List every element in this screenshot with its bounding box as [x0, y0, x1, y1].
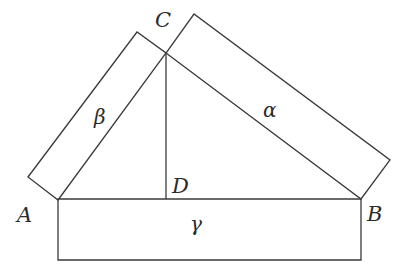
- label-alpha: α: [263, 98, 277, 122]
- label-gamma: γ: [190, 212, 202, 236]
- label-c: C: [155, 8, 171, 32]
- label-beta: β: [93, 105, 106, 129]
- rectangle-gamma: [58, 199, 361, 260]
- label-d: D: [171, 174, 189, 198]
- label-a: A: [15, 203, 32, 227]
- label-b: B: [366, 202, 382, 226]
- rectangle-alpha: [166, 14, 390, 199]
- geometry-diagram: C A B D α β γ: [0, 0, 399, 278]
